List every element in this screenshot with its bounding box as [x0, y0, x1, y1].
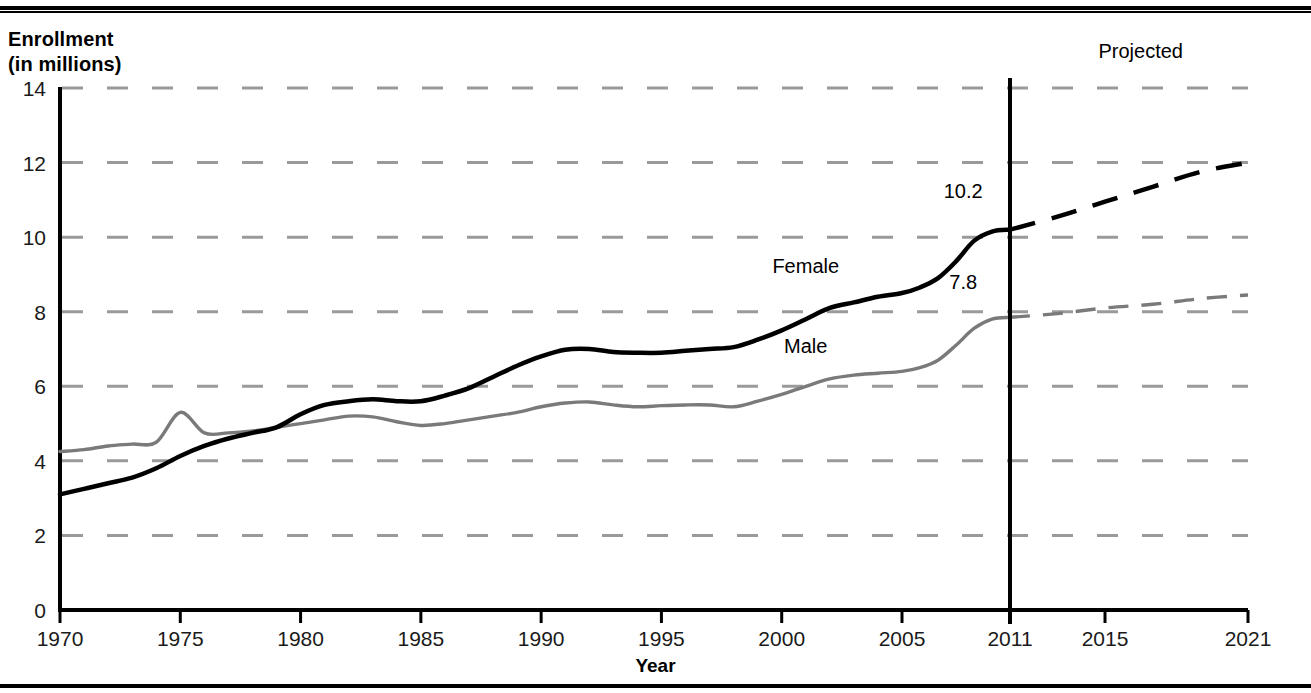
gridline-group [62, 88, 1248, 535]
axis-lines [60, 87, 1248, 610]
enrollment-chart-figure: Enrollment (in millions) 02468101214 197… [0, 0, 1311, 693]
x-tick-label-1995: 1995 [638, 627, 685, 650]
value-label-male: 7.8 [949, 271, 977, 293]
x-tick-label-1975: 1975 [157, 627, 204, 650]
series-line-female-projected [1010, 163, 1248, 230]
y-tick-label-6: 6 [34, 375, 46, 398]
series-line-male-projected [1010, 295, 1248, 317]
axis-group [60, 87, 1248, 610]
series-line-male-actual [60, 317, 1010, 451]
y-tick-label-12: 12 [23, 152, 46, 175]
x-tick-group: 1970197519801985199019952000200520112015… [37, 610, 1272, 650]
series-label-male: Male [784, 335, 827, 357]
x-tick-label-2015: 2015 [1082, 627, 1129, 650]
x-tick-label-2000: 2000 [758, 627, 805, 650]
x-tick-label-1990: 1990 [518, 627, 565, 650]
x-tick-label-1980: 1980 [277, 627, 324, 650]
x-tick-label-1985: 1985 [397, 627, 444, 650]
y-tick-label-0: 0 [34, 599, 46, 622]
x-tick-label-2005: 2005 [879, 627, 926, 650]
projected-annotation: Projected [1099, 40, 1184, 62]
x-tick-label-2021: 2021 [1225, 627, 1272, 650]
y-tick-group: 02468101214 [23, 77, 47, 622]
x-axis-title: Year [0, 655, 1311, 677]
series-line-female-actual [60, 230, 1010, 495]
series-label-female: Female [772, 255, 839, 277]
y-tick-label-8: 8 [34, 301, 46, 324]
y-tick-label-4: 4 [34, 450, 46, 473]
y-tick-label-2: 2 [34, 524, 46, 547]
y-tick-label-14: 14 [23, 77, 47, 100]
value-label-female: 10.2 [944, 180, 983, 202]
y-tick-label-10: 10 [23, 226, 46, 249]
line-chart-plot: 02468101214 1970197519801985199019952000… [0, 0, 1311, 693]
x-tick-label-1970: 1970 [37, 627, 84, 650]
bottom-divider-rule [0, 684, 1311, 688]
series-layer [60, 163, 1248, 495]
x-tick-label-2011: 2011 [987, 627, 1032, 650]
